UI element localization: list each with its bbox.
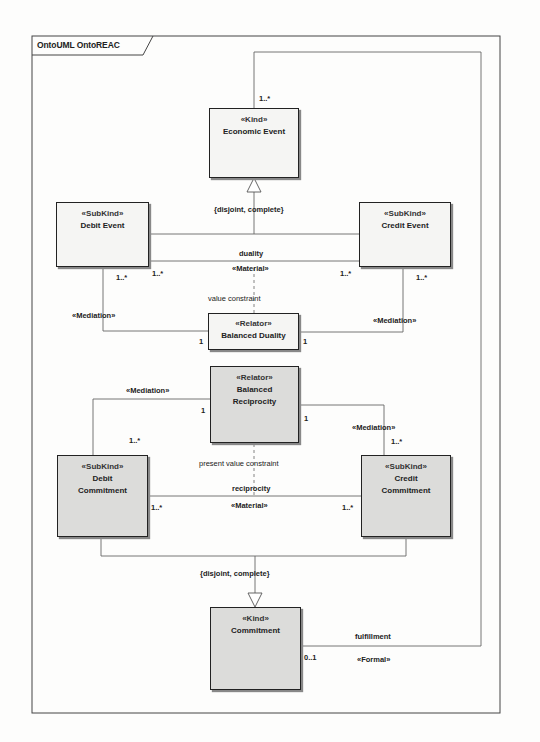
diagram-canvas: OntoUML OntoREAC «Kind» Economic Event «… [0,0,540,742]
fulfillment-mult-event: 1..* [259,94,270,103]
stereotype-label: «SubKind» [57,208,148,220]
class-debit-event[interactable]: «SubKind» Debit Event [56,202,149,267]
class-credit-event[interactable]: «SubKind» Credit Event [359,202,451,267]
duality-stereotype: «Material» [232,264,269,273]
commitment-generalization-constraint: {disjoint, complete} [200,569,270,578]
fulfillment-name: fulfillment [355,632,391,641]
reciprocity-mediation-right-mult-relator: 1 [304,414,308,423]
fulfillment-stereotype: «Formal» [357,655,390,664]
class-balanced-duality[interactable]: «Relator» Balanced Duality [208,313,299,350]
stereotype-label: «SubKind» [362,461,450,473]
class-name-line1: Balanced [211,384,298,396]
stereotype-label: «SubKind» [360,208,450,220]
class-balanced-reciprocity[interactable]: «Relator» Balanced Reciprocity [210,366,299,443]
class-name-line2: Commitment [58,485,147,497]
reciprocity-mediation-right-mult-subkind: 1..* [391,437,402,446]
class-name-line1: Debit [58,473,147,485]
class-debit-commitment[interactable]: «SubKind» Debit Commitment [57,455,148,537]
duality-mediation-right-mult-relator: 1 [303,337,307,346]
stereotype-label: «Relator» [209,318,298,330]
present-value-constraint-label: present value constraint [199,459,279,468]
duality-mediation-left-mult-subkind: 1..* [116,273,127,282]
reciprocity-mediation-left-mult-subkind: 1..* [129,436,140,445]
class-name-line2: Reciprocity [211,396,298,408]
duality-mediation-left-mult-relator: 1 [199,337,203,346]
class-credit-commitment[interactable]: «SubKind» Credit Commitment [361,455,451,537]
duality-mult-right: 1..* [340,269,351,278]
stereotype-label: «Kind» [211,613,300,625]
class-name-line2: Commitment [362,485,450,497]
duality-mediation-right-mult-subkind: 1..* [416,273,427,282]
reciprocity-mult-left: 1..* [151,503,162,512]
reciprocity-mediation-left-stereotype: «Mediation» [126,386,169,395]
duality-name: duality [239,249,263,258]
stereotype-label: «Relator» [211,372,298,384]
stereotype-label: «Kind» [210,114,298,126]
reciprocity-mediation-right-stereotype: «Mediation» [352,423,395,432]
reciprocity-mediation-left-mult-relator: 1 [201,406,205,415]
class-commitment[interactable]: «Kind» Commitment [210,607,301,690]
class-economic-event[interactable]: «Kind» Economic Event [209,108,299,178]
reciprocity-mult-right: 1..* [342,503,353,512]
frame-title: OntoUML OntoREAC [33,37,120,54]
duality-mediation-left-stereotype: «Mediation» [72,311,115,320]
stereotype-label: «SubKind» [58,461,147,473]
reciprocity-stereotype: «Material» [231,501,268,510]
class-name: Debit Event [57,220,148,232]
duality-mult-left: 1..* [152,269,163,278]
duality-mediation-right-stereotype: «Mediation» [373,316,416,325]
reciprocity-name: reciprocity [232,484,270,493]
event-generalization-constraint: {disjoint, complete} [214,205,284,214]
class-name-line1: Credit [362,473,450,485]
value-constraint-label: value constraint [208,294,261,303]
class-name: Credit Event [360,220,450,232]
class-name: Economic Event [210,126,298,138]
class-name: Commitment [211,625,300,637]
fulfillment-mult-commitment: 0..1 [304,653,317,662]
class-name: Balanced Duality [209,330,298,342]
